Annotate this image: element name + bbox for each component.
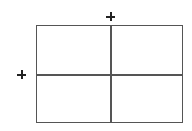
grid-cell-r1c1[interactable] <box>37 26 110 74</box>
horizontal-divider[interactable] <box>37 74 182 76</box>
grid-table <box>36 25 183 123</box>
grid-cell-r2c1[interactable] <box>37 76 110 121</box>
add-column-plus-icon[interactable] <box>106 12 115 21</box>
grid-cell-r1c2[interactable] <box>112 26 181 74</box>
grid-cell-r2c2[interactable] <box>112 76 181 121</box>
add-row-plus-icon[interactable] <box>17 70 26 79</box>
